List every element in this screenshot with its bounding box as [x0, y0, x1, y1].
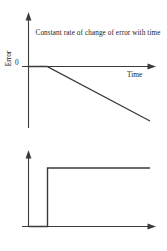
- error-y-axis: [26, 12, 32, 128]
- output-y-axis: [26, 150, 32, 227]
- error-plot-canvas: [0, 0, 167, 132]
- error-y-axis-label: Error: [4, 42, 13, 76]
- error-plot-annotation: Constant rate of change of error with ti…: [34, 29, 162, 38]
- controller-output-step-line: [29, 168, 151, 227]
- error-vs-time-plot: Constant rate of change of error with ti…: [0, 0, 167, 132]
- controller-output-plot-canvas: [0, 132, 167, 251]
- error-zero-tick-label: 0: [15, 58, 19, 67]
- figure-container: Constant rate of change of error with ti…: [0, 0, 167, 251]
- controller-output-vs-time-plot: Controller output Time: [0, 132, 167, 251]
- error-x-axis-label: Time: [127, 70, 142, 79]
